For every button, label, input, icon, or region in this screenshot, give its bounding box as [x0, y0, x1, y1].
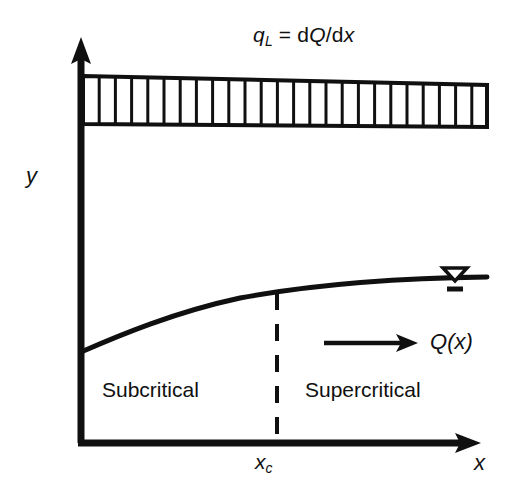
lateral-inflow-hatched-band [83, 76, 487, 127]
critical-point-label: xc [255, 451, 272, 476]
equation-equals: = [273, 23, 298, 46]
equation-q-subscript: L [265, 33, 273, 49]
x-axis-label: x [474, 452, 485, 474]
flow-direction-arrow-icon [324, 334, 418, 352]
equation-d-one: d [297, 23, 309, 46]
critical-point-symbol: x [255, 450, 266, 473]
lateral-inflow-equation: qL = dQ/dx [253, 24, 354, 49]
equation-q-symbol: q [253, 23, 265, 46]
region-label-subcritical: Subcritical [102, 379, 199, 400]
equation-slash-d: /d [326, 23, 344, 46]
discharge-label: Q(x) [430, 331, 473, 353]
equation-Q-symbol: Q [309, 23, 326, 46]
figure-canvas [0, 0, 512, 502]
region-label-supercritical: Supercritical [305, 379, 421, 400]
water-surface-profile-curve [81, 277, 487, 352]
flow-profile-figure: qL = dQ/dx y x xc Q(x) Subcritical Super… [0, 0, 512, 502]
x-axis [78, 433, 481, 453]
equation-x-symbol: x [344, 23, 355, 46]
discharge-symbol: Q [430, 329, 447, 354]
discharge-argument: (x) [447, 329, 473, 354]
y-axis-label: y [26, 165, 37, 187]
critical-point-subscript: c [266, 460, 273, 476]
